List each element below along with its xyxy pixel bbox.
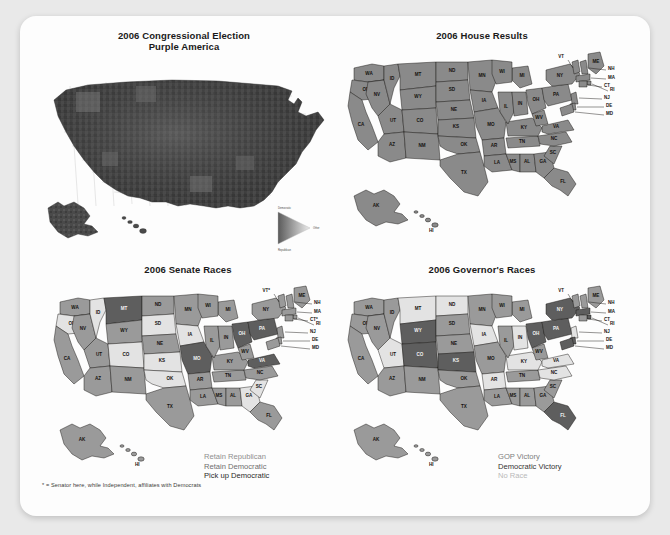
- map-governors-races: WAORCANVIDMTWYUTCOAZNMNDSDNEKSOKTXMNIAMO…: [332, 280, 632, 492]
- state-label-md: MD: [606, 345, 614, 350]
- state-label-md: MD: [606, 111, 614, 116]
- state-ok: [438, 136, 480, 154]
- state-label-ma: MA: [608, 75, 616, 80]
- state-label-ak: AK: [79, 437, 86, 442]
- state-ok: [144, 370, 186, 388]
- state-label-mo: MO: [487, 356, 495, 361]
- state-label-fl: FL: [560, 413, 566, 418]
- state-label-ca: CA: [358, 356, 365, 361]
- panel-title-senate-races: 2006 Senate Races: [38, 264, 338, 275]
- state-label-sd: SD: [449, 87, 456, 92]
- state-hi-island-3: [138, 457, 144, 461]
- state-label-sc: SC: [256, 384, 263, 389]
- state-label-al: AL: [230, 393, 236, 398]
- state-hi-island-0: [414, 445, 418, 448]
- legend-label-2: Pick up Democratic: [204, 471, 269, 480]
- state-label-nj: NJ: [310, 329, 316, 334]
- panel-governors-races: 2006 Governor's Races WAORCANVIDMTWYUTCO…: [332, 264, 632, 504]
- state-label-me: ME: [299, 293, 306, 298]
- legend-item-2: Pick up Democratic: [204, 471, 269, 481]
- leader-line-md: [281, 346, 310, 349]
- state-label-ok: OK: [461, 376, 469, 381]
- state-ri: [293, 315, 297, 319]
- state-md: [266, 338, 280, 350]
- state-label-nm: NM: [418, 377, 425, 382]
- legend-item-2: No Race: [498, 471, 562, 481]
- state-label-va: VA: [553, 358, 560, 363]
- map-senate-races: WAORCANVIDMTWYUTCOAZNMNDSDNEKSOKTXMNIAMO…: [38, 280, 338, 492]
- purple-lower48: [54, 80, 324, 208]
- leader-line-nj: [285, 332, 308, 333]
- state-label-tn: TN: [225, 373, 232, 378]
- state-label-ia: IA: [482, 332, 487, 337]
- state-label-id: ID: [390, 76, 395, 81]
- state-label-la: LA: [200, 394, 207, 399]
- state-label-nh: NH: [608, 66, 615, 71]
- legend-label-0: GOP Victory: [498, 452, 540, 461]
- state-label-mi: MI: [225, 307, 230, 312]
- panel-purple-america: 2006 Congressional Election Purple Ameri…: [38, 30, 330, 260]
- state-label-id: ID: [390, 310, 395, 315]
- state-label-ma: MA: [608, 309, 616, 314]
- title-line-1: 2006 House Results: [436, 30, 528, 41]
- state-label-ar: AR: [491, 377, 498, 382]
- state-label-de: DE: [606, 103, 612, 108]
- state-hi-island-1: [126, 449, 131, 452]
- state-ok: [438, 370, 480, 388]
- state-label-sd: SD: [155, 321, 162, 326]
- state-label-ne: NE: [451, 341, 457, 346]
- state-label-me: ME: [593, 293, 600, 298]
- state-label-ok: OK: [461, 142, 469, 147]
- state-label-mt: MT: [415, 306, 422, 311]
- state-label-ga: GA: [246, 393, 254, 398]
- legend-label-1: Democratic Victory: [498, 462, 562, 471]
- state-label-va: VA: [259, 358, 266, 363]
- state-hi-island-3: [432, 457, 438, 461]
- state-nj: [571, 92, 578, 104]
- state-label-tn: TN: [519, 373, 526, 378]
- state-label-ok: OK: [167, 376, 175, 381]
- state-az: [378, 132, 406, 162]
- state-label-ks: KS: [159, 358, 165, 363]
- legend-label-2: No Race: [498, 471, 528, 480]
- state-ct: [285, 315, 293, 321]
- state-label-wv: WV: [241, 349, 249, 354]
- state-label-nj: NJ: [604, 329, 610, 334]
- state-label-sc: SC: [550, 384, 557, 389]
- state-label-id: ID: [96, 310, 101, 315]
- state-label-il: IL: [504, 338, 508, 343]
- state-label-md: MD: [312, 345, 320, 350]
- state-label-ky: KY: [521, 125, 527, 130]
- state-hi-island-3: [432, 223, 438, 227]
- state-label-ct: CT*: [310, 317, 318, 322]
- state-label-tx: TX: [461, 170, 468, 175]
- state-label-in: IN: [518, 101, 523, 106]
- state-label-in: IN: [224, 335, 229, 340]
- state-label-mn: MN: [478, 307, 486, 312]
- state-label-ms: MS: [510, 159, 517, 164]
- state-label-pa: PA: [553, 92, 560, 97]
- state-label-nv: NV: [374, 92, 381, 97]
- state-label-mn: MN: [478, 73, 486, 78]
- senate-map-svg: WAORCANVIDMTWYUTCOAZNMNDSDNEKSOKTXMNIAMO…: [38, 280, 338, 492]
- state-md: [560, 104, 574, 116]
- state-label-mi: MI: [519, 73, 524, 78]
- state-label-ne: NE: [451, 107, 457, 112]
- state-label-wi: WI: [499, 303, 505, 308]
- state-label-mi: MI: [519, 307, 524, 312]
- state-label-wi: WI: [205, 303, 211, 308]
- state-nh: [580, 60, 588, 74]
- state-label-co: CO: [417, 352, 424, 357]
- triangle-swatch: [278, 212, 310, 244]
- state-nj: [571, 326, 578, 338]
- state-nj: [277, 326, 284, 338]
- state-label-ar: AR: [491, 143, 498, 148]
- purple-alaska: [48, 202, 98, 238]
- state-label-ca: CA: [64, 356, 71, 361]
- poster-card: 2006 Congressional Election Purple Ameri…: [20, 16, 650, 516]
- legend-item-1: Retain Democratic: [204, 462, 269, 472]
- purple-hawaii: [122, 217, 146, 234]
- state-label-ky: KY: [227, 359, 233, 364]
- state-label-al: AL: [524, 159, 530, 164]
- state-label-de: DE: [606, 337, 612, 342]
